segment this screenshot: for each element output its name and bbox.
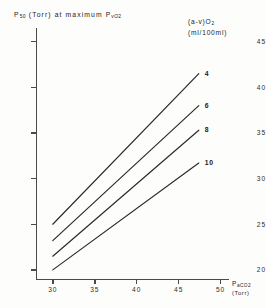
series-line-6 bbox=[53, 106, 199, 241]
x-axis-title-symbol: PaCO2 bbox=[232, 279, 251, 289]
x-axis-title-subscript: aCO bbox=[237, 283, 248, 288]
x-axis-title: PaCO2 (Torr) bbox=[232, 279, 251, 298]
series-label-8: 8 bbox=[205, 126, 209, 133]
plot-area bbox=[0, 0, 266, 308]
series-label-10: 10 bbox=[205, 159, 214, 166]
x-axis-title-unit: (Torr) bbox=[232, 289, 251, 298]
series-label-6: 6 bbox=[205, 102, 209, 109]
series-label-4: 4 bbox=[205, 70, 209, 77]
series-line-10 bbox=[53, 163, 199, 270]
x-axis-title-subscript2: 2 bbox=[248, 283, 251, 288]
chart-figure: P50 (Torr) at maximum PvO2 (a-v)O2 (ml/1… bbox=[0, 0, 266, 308]
